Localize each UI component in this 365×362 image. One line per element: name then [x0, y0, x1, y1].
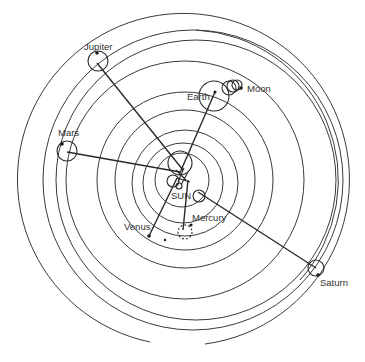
label-sun: SUN — [171, 191, 191, 201]
orbit-outer-1 — [17, 13, 349, 344]
earth-dot — [214, 91, 217, 94]
line-jupiter — [97, 63, 183, 170]
label-venus: Venus — [124, 222, 150, 232]
mercury-dot — [189, 223, 192, 226]
label-moon: Moon — [247, 84, 271, 94]
line-mars — [67, 152, 180, 172]
planetary-system-diagram — [0, 0, 365, 362]
label-mercury: Mercury — [192, 213, 226, 223]
line-earth — [179, 92, 215, 175]
epicycles — [57, 51, 324, 277]
label-jupiter: Jupiter — [84, 42, 113, 52]
orbit-saturn — [43, 30, 343, 330]
mercury-epicycle — [178, 225, 192, 239]
label-earth: Earth — [187, 92, 210, 102]
label-mars: Mars — [58, 128, 79, 138]
venus-dot — [147, 234, 151, 238]
venus-small-dot — [164, 239, 166, 241]
mars-dot — [60, 142, 64, 146]
mars-epicycle — [57, 141, 77, 161]
label-saturn: Saturn — [320, 278, 348, 288]
line-saturn — [198, 192, 316, 268]
moon-dot — [239, 86, 243, 90]
orbit-jupiter — [56, 40, 336, 320]
orbits — [17, 13, 349, 344]
